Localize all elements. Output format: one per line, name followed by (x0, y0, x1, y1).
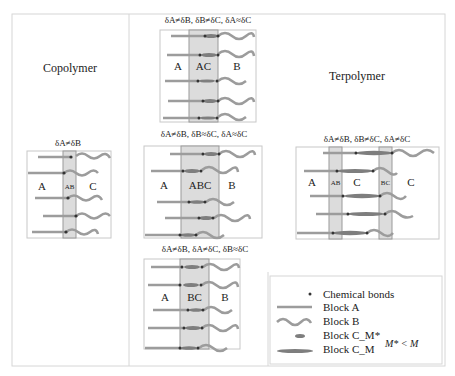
legend: Chemical bonds Block A Block B Block C_M… (270, 276, 442, 364)
panel-ter-ac: δA≠δB, δB≠δC, δA≈δC A AC B (160, 15, 256, 122)
block-c-short-icon (295, 334, 305, 338)
block-c-long-icon (277, 349, 313, 353)
polymer-diagram: Copolymer Terpolymer δA≠δB A AB C δA≠δB,… (0, 0, 455, 376)
svg-text:AB: AB (65, 183, 75, 191)
svg-text:B: B (221, 291, 228, 303)
panel-ter-abc: δA≠δB, δB≈δC, δA≈δC A ABC B (144, 129, 262, 238)
svg-text:Block B: Block B (323, 315, 359, 327)
svg-text:δA≠δB, δB≠δC, δA≠δC: δA≠δB, δB≠δC, δA≠δC (324, 134, 410, 144)
svg-text:Chemical bonds: Chemical bonds (323, 288, 394, 300)
svg-text:BC: BC (187, 291, 202, 303)
svg-text:AC: AC (196, 60, 211, 72)
panel-condition: δA≠δB (55, 138, 81, 148)
svg-text:C: C (89, 180, 96, 192)
svg-text:BC: BC (381, 179, 391, 187)
svg-text:C: C (353, 176, 360, 188)
svg-text:AB: AB (331, 179, 341, 187)
svg-text:A: A (38, 180, 46, 192)
panel-ter-bc: δA≠δB, δA≠δC, δB≈δC A BC B (144, 244, 248, 351)
svg-text:A: A (161, 291, 169, 303)
svg-text:M* < M: M* < M (384, 338, 419, 349)
panel-copolymer: δA≠δB A AB C (27, 138, 111, 238)
svg-text:C: C (407, 176, 414, 188)
svg-text:Block A: Block A (323, 301, 359, 313)
svg-text:Block C_M*: Block C_M* (323, 329, 380, 341)
svg-text:A: A (160, 179, 168, 191)
svg-text:δA≠δB, δB≈δC, δA≈δC: δA≠δB, δB≈δC, δA≈δC (161, 129, 247, 139)
svg-text:δA≠δB, δA≠δC, δB≈δC: δA≠δB, δA≠δC, δB≈δC (162, 244, 248, 254)
copolymer-title: Copolymer (43, 61, 97, 75)
panel-ter-ab-bc: δA≠δB, δB≠δC, δA≠δC A AB C BC (296, 134, 439, 239)
svg-text:A: A (174, 60, 182, 72)
svg-text:ABC: ABC (189, 179, 212, 191)
svg-text:δA≠δB, δB≠δC, δA≈δC: δA≠δB, δB≠δC, δA≈δC (165, 15, 251, 25)
svg-text:A: A (308, 176, 316, 188)
svg-text:B: B (233, 60, 240, 72)
bond-icon (309, 293, 312, 296)
terpolymer-title: Terpolymer (329, 69, 385, 83)
svg-text:B: B (228, 179, 235, 191)
svg-text:Block C_M: Block C_M (323, 343, 375, 355)
